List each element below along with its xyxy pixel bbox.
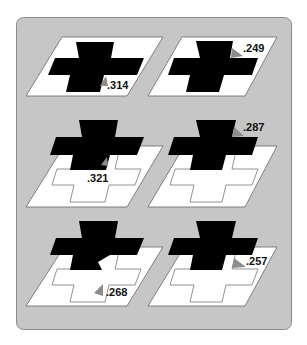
value-label: .268 — [106, 286, 127, 298]
cross-diagram-figure: .314 .249 .321 .287 .268 .257 — [0, 0, 307, 345]
value-label: .287 — [243, 121, 264, 133]
value-label: .257 — [246, 255, 267, 267]
value-label: .321 — [87, 172, 108, 184]
value-label: .314 — [107, 79, 129, 91]
value-label: .249 — [243, 42, 264, 54]
